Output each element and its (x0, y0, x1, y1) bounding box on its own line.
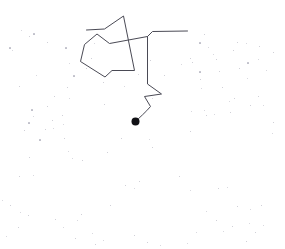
canvas-stage (0, 0, 285, 249)
pointer-path (81, 16, 188, 122)
path-endpoint-dot[interactable] (132, 118, 140, 126)
trajectory-canvas (0, 0, 285, 249)
